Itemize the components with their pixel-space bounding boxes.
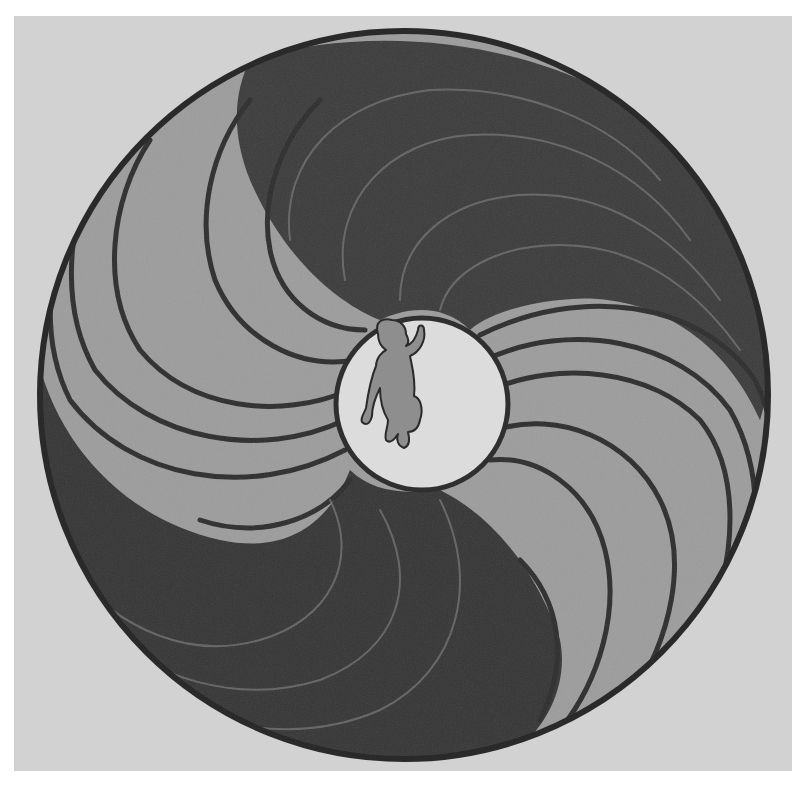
swirl-painting	[0, 0, 807, 789]
